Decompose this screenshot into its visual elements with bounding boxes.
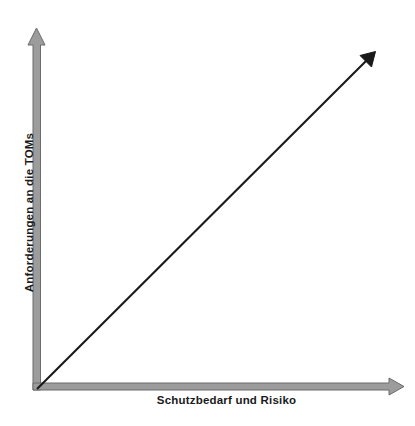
x-axis-arrow — [33, 378, 404, 395]
y-axis-label: Anforderungen an die TOMs — [20, 130, 38, 295]
x-axis-label: Schutzbedarf und Risiko — [0, 394, 415, 406]
trend-line — [37, 59, 368, 389]
chart-canvas: Schutzbedarf und Risiko Anforderungen an… — [0, 0, 415, 426]
chart-graphics — [0, 0, 415, 426]
